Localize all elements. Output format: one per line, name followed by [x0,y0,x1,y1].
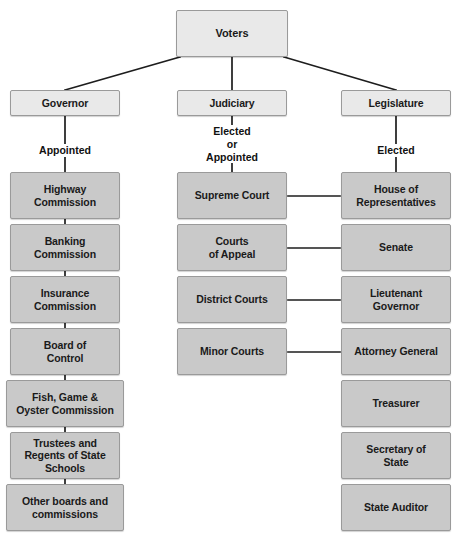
node-highway-commission[interactable]: Highway Commission [10,172,120,219]
node-voters[interactable]: Voters [176,10,288,57]
node-other-boards-commissions[interactable]: Other boards and commissions [6,484,124,531]
node-insurance-commission[interactable]: Insurance Commission [10,276,120,323]
node-legislature[interactable]: Legislature [341,90,451,116]
node-lieutenant-governor[interactable]: Lieutenant Governor [341,276,451,323]
node-state-auditor[interactable]: State Auditor [341,484,451,531]
node-treasurer[interactable]: Treasurer [341,380,451,427]
edge-label-appointed: Appointed [10,144,120,157]
node-courts-of-appeal[interactable]: Courts of Appeal [177,224,287,271]
node-judiciary[interactable]: Judiciary [177,90,287,116]
node-secretary-of-state[interactable]: Secretary of State [341,432,451,479]
node-trustees-regents-state-schools[interactable]: Trustees and Regents of State Schools [10,432,120,479]
edge-label-elected-or-appointed: Elected or Appointed [177,125,287,163]
node-board-of-control[interactable]: Board of Control [10,328,120,375]
node-minor-courts[interactable]: Minor Courts [177,328,287,375]
node-fish-game-oyster-commission[interactable]: Fish, Game & Oyster Commission [6,380,124,427]
node-governor[interactable]: Governor [10,90,120,116]
node-supreme-court[interactable]: Supreme Court [177,172,287,219]
node-senate[interactable]: Senate [341,224,451,271]
node-district-courts[interactable]: District Courts [177,276,287,323]
node-banking-commission[interactable]: Banking Commission [10,224,120,271]
edge-voters-governor [65,57,180,90]
edge-label-elected: Elected [341,144,451,157]
org-chart: Voters Governor Judiciary Legislature Ap… [0,0,461,535]
edge-voters-legislature [284,57,396,90]
node-attorney-general[interactable]: Attorney General [341,328,451,375]
node-house-of-representatives[interactable]: House of Representatives [341,172,451,219]
